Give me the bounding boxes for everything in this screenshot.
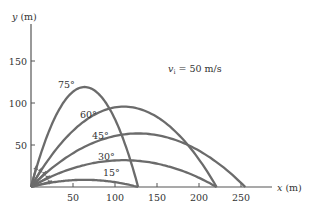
x-axis-label: x (m)	[277, 182, 302, 193]
x-tick-label: 200	[190, 192, 208, 203]
angle-label-30: 30°	[98, 151, 115, 162]
angle-label-60: 60°	[80, 109, 97, 120]
y-tick-label: 50	[15, 140, 27, 151]
y-axis-label: y (m)	[11, 11, 37, 22]
trajectory-60	[31, 107, 217, 187]
angle-label-15: 15°	[103, 167, 120, 178]
x-tick-label: 100	[106, 192, 124, 203]
trajectory-chart: 5010015020025050100150 y (m)x (m)vi = 50…	[0, 0, 314, 207]
x-tick-label: 50	[67, 192, 79, 203]
trajectory-curves	[31, 87, 245, 187]
angle-label-75: 75°	[58, 79, 75, 90]
x-tick-label: 250	[232, 192, 250, 203]
y-tick-label: 150	[9, 56, 27, 67]
x-tick-label: 150	[148, 192, 166, 203]
angle-label-45: 45°	[92, 130, 109, 141]
initial-speed-annotation: vi = 50 m/s	[168, 63, 222, 76]
y-tick-label: 100	[9, 98, 27, 109]
